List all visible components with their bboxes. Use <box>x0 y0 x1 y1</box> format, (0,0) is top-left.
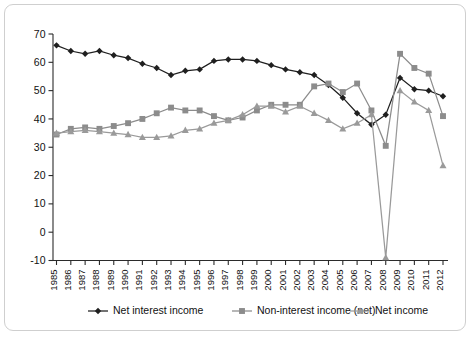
x-axis-tick-label: 1996 <box>205 270 216 291</box>
data-point-diamond <box>225 56 231 62</box>
data-point-diamond <box>68 48 74 54</box>
data-point-square <box>354 81 360 87</box>
x-axis-tick-label: 2009 <box>391 270 402 291</box>
data-point-diamond <box>53 42 59 48</box>
data-point-diamond <box>111 52 117 58</box>
x-axis-tick-label: 1999 <box>248 270 259 291</box>
line-chart: -10010203040506070 198519861987198819891… <box>0 0 474 337</box>
x-axis-tick-label: 2000 <box>262 270 273 291</box>
data-point-diamond <box>125 55 131 61</box>
data-point-diamond <box>196 66 202 72</box>
x-axis-tick-label: 1995 <box>191 270 202 291</box>
x-axis: 1985198619871988198919901991199219931994… <box>48 261 449 291</box>
data-point-triangle <box>354 120 361 126</box>
data-point-diamond <box>440 93 446 99</box>
data-point-diamond <box>182 68 188 74</box>
x-axis-tick-label: 1985 <box>48 270 59 291</box>
data-point-square <box>326 81 332 87</box>
data-point-diamond <box>82 51 88 57</box>
data-point-square <box>340 89 346 95</box>
data-point-diamond <box>425 87 431 93</box>
x-axis-tick-label: 2004 <box>319 270 330 291</box>
data-point-square <box>383 143 389 149</box>
data-point-square <box>397 51 403 57</box>
y-axis-tick-label: 20 <box>34 169 46 181</box>
data-point-diamond <box>168 72 174 78</box>
data-point-diamond <box>239 56 245 62</box>
x-axis-tick-label: 1990 <box>119 270 130 291</box>
legend-item-1[interactable]: Net interest income <box>88 304 204 316</box>
y-axis-tick-label: 0 <box>40 226 46 238</box>
x-axis-tick-label: 1998 <box>234 270 245 291</box>
data-point-triangle <box>397 87 404 93</box>
data-point-diamond <box>211 58 217 64</box>
x-axis-tick-label: 1991 <box>133 270 144 291</box>
data-point-diamond <box>254 58 260 64</box>
x-axis-tick-label: 2003 <box>305 270 316 291</box>
data-point-square <box>197 107 203 113</box>
x-axis-tick-label: 2011 <box>420 270 431 290</box>
x-axis-tick-label: 1994 <box>176 270 187 291</box>
x-axis-tick-label: 2008 <box>377 270 388 291</box>
series-1 <box>53 42 446 128</box>
legend-item-2[interactable]: Non-interest income (net) <box>232 304 375 316</box>
y-axis-tick-label: 50 <box>34 84 46 96</box>
x-axis-tick-label: 2006 <box>348 270 359 291</box>
data-point-square <box>139 116 145 122</box>
y-axis-tick-label: 30 <box>34 141 46 153</box>
series-3 <box>53 87 446 260</box>
x-axis-tick-label: 2005 <box>334 270 345 291</box>
x-axis-tick-label: 2007 <box>362 270 373 291</box>
data-point-square <box>211 113 217 119</box>
data-series-group <box>53 42 446 260</box>
data-point-square <box>154 110 160 116</box>
data-point-diamond <box>139 61 145 67</box>
data-point-square <box>426 71 432 77</box>
chart-container: -10010203040506070 198519861987198819891… <box>0 0 474 337</box>
y-axis-tick-label: -10 <box>30 254 45 266</box>
data-point-square <box>125 120 131 126</box>
data-point-diamond <box>96 48 102 54</box>
x-axis-tick-label: 1992 <box>148 270 159 291</box>
y-axis: -10010203040506070 <box>30 28 53 267</box>
y-axis-tick-label: 60 <box>34 56 46 68</box>
data-point-triangle <box>239 111 246 117</box>
data-point-square <box>283 102 289 108</box>
legend-label: Net income <box>375 304 428 316</box>
data-point-triangle <box>425 107 432 113</box>
data-point-square <box>411 65 417 71</box>
x-axis-tick-label: 2012 <box>434 270 445 291</box>
legend-label: Net interest income <box>113 304 204 316</box>
x-axis-tick-label: 1993 <box>162 270 173 291</box>
data-point-diamond <box>95 308 101 314</box>
x-axis-tick-label: 1989 <box>105 270 116 291</box>
data-point-square <box>111 123 117 129</box>
data-point-diamond <box>297 69 303 75</box>
data-point-triangle <box>382 254 389 260</box>
data-point-diamond <box>154 65 160 71</box>
legend-label: Non-interest income (net) <box>257 304 375 316</box>
data-point-square <box>182 107 188 113</box>
x-axis-tick-label: 2002 <box>291 270 302 291</box>
x-axis-tick-label: 2010 <box>405 270 416 291</box>
data-point-triangle <box>440 162 447 168</box>
x-axis-tick-label: 1986 <box>62 270 73 291</box>
data-point-square <box>168 105 174 111</box>
y-axis-tick-label: 40 <box>34 113 46 125</box>
x-axis-tick-label: 1997 <box>219 270 230 291</box>
data-point-diamond <box>268 62 274 68</box>
chart-legend: Net interest incomeNon-interest income (… <box>88 304 428 316</box>
x-axis-tick-label: 1987 <box>76 270 87 291</box>
y-axis-tick-label: 10 <box>34 197 46 209</box>
data-point-diamond <box>282 66 288 72</box>
data-point-square <box>311 83 317 89</box>
x-axis-tick-label: 1988 <box>90 270 101 291</box>
data-point-square <box>239 308 245 314</box>
x-axis-tick-label: 2001 <box>277 270 288 291</box>
y-axis-tick-label: 70 <box>34 28 46 40</box>
data-point-square <box>440 113 446 119</box>
